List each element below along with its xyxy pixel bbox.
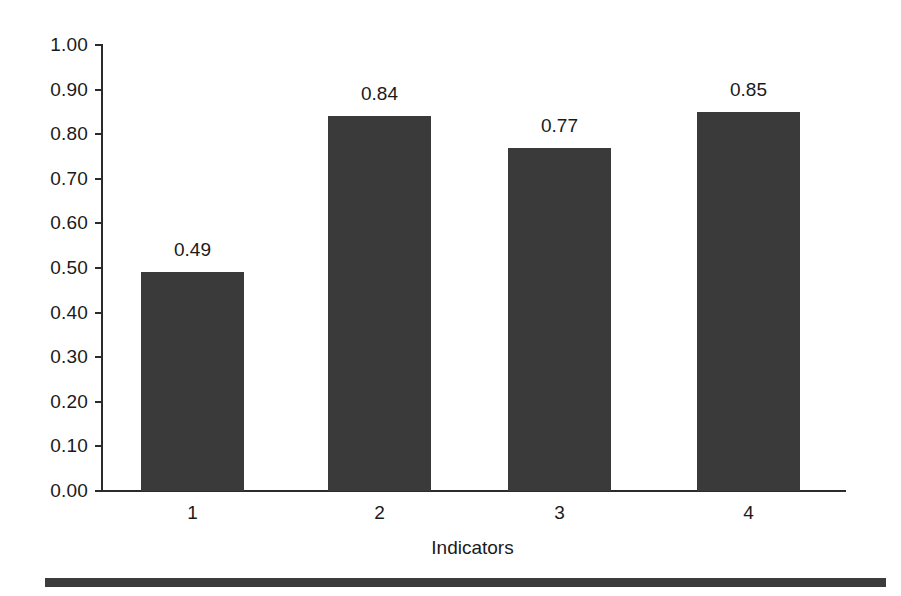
bar[interactable] <box>697 112 800 491</box>
y-axis-tick <box>95 178 103 180</box>
x-axis-category-label: 4 <box>697 503 800 522</box>
y-axis-tick-label: 0.10 <box>0 436 88 455</box>
y-axis-tick <box>95 89 103 91</box>
y-axis-tick <box>95 490 103 492</box>
bar[interactable] <box>508 148 611 491</box>
y-axis-tick-label: 0.70 <box>0 169 88 188</box>
x-axis-title-text: Indicators <box>431 537 513 559</box>
y-axis-tick-label: 0.20 <box>0 392 88 411</box>
x-axis-category-label: 3 <box>508 503 611 522</box>
bar-value-label: 0.85 <box>697 80 800 99</box>
bar-chart-figure: 1.000.900.800.700.600.500.400.300.200.10… <box>0 0 901 596</box>
y-axis-tick <box>95 401 103 403</box>
y-axis-tick <box>95 445 103 447</box>
y-axis-tick-label: 0.00 <box>0 481 88 500</box>
y-axis-tick-label: 1.00 <box>0 35 88 54</box>
x-axis-category-label: 1 <box>141 503 244 522</box>
bar-value-label: 0.84 <box>328 84 431 103</box>
y-axis-tick <box>95 222 103 224</box>
bar[interactable] <box>328 116 431 491</box>
y-axis-tick <box>95 312 103 314</box>
bottom-divider-rule <box>45 578 886 587</box>
y-axis-tick-label: 0.50 <box>0 258 88 277</box>
bar-value-label: 0.77 <box>508 116 611 135</box>
x-axis-title: Indicators <box>0 537 901 559</box>
y-axis-tick <box>95 133 103 135</box>
bar[interactable] <box>141 272 244 491</box>
y-axis-tick-labels: 1.000.900.800.700.600.500.400.300.200.10… <box>0 0 88 596</box>
x-axis-category-label: 2 <box>328 503 431 522</box>
y-axis-tick-label: 0.30 <box>0 347 88 366</box>
y-axis-tick <box>95 44 103 46</box>
bar-value-label: 0.49 <box>141 240 244 259</box>
y-axis-tick <box>95 356 103 358</box>
y-axis-tick-label: 0.60 <box>0 213 88 232</box>
y-axis-tick-label: 0.40 <box>0 303 88 322</box>
y-axis-tick-label: 0.90 <box>0 80 88 99</box>
y-axis-tick <box>95 267 103 269</box>
y-axis-tick-label: 0.80 <box>0 124 88 143</box>
plot-area <box>103 45 845 491</box>
